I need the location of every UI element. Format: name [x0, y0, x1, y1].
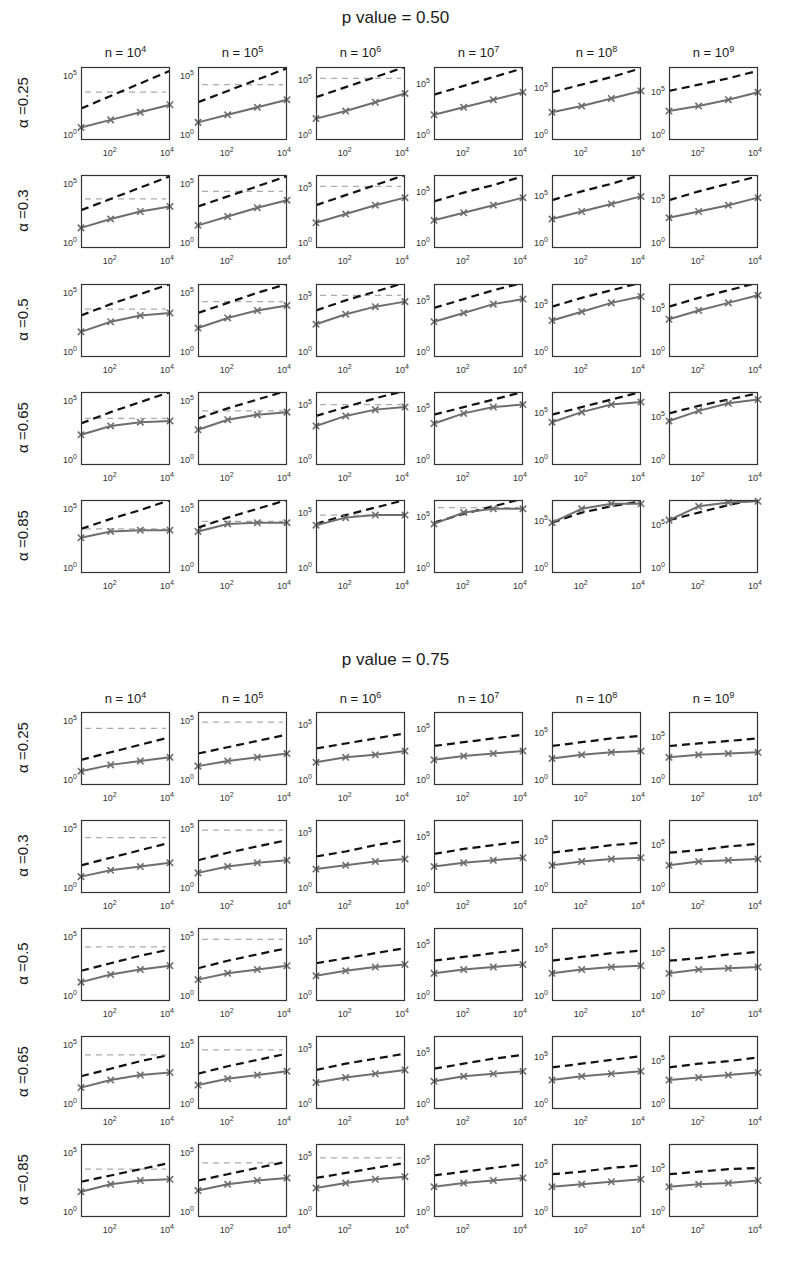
tick-exponent: 2 [701, 579, 705, 586]
tick-base: 10 [63, 179, 73, 189]
tick-exponent: 5 [190, 286, 194, 293]
y-tick-label: 100 [534, 773, 548, 785]
x-tick-label: 104 [631, 254, 645, 266]
tick-exponent: 2 [113, 579, 117, 586]
tick-base: 10 [416, 512, 426, 522]
axes-frame [82, 176, 170, 248]
axes-frame [553, 176, 641, 248]
tick-exponent: 4 [641, 363, 645, 370]
row-label-alpha: α =0.85 [14, 495, 31, 575]
tick-base: 10 [513, 1225, 523, 1235]
tick-exponent: 5 [73, 822, 77, 829]
tick-base: 10 [395, 1117, 405, 1127]
tick-base: 10 [63, 455, 73, 465]
y-tick-label: 100 [298, 1097, 312, 1109]
tick-base: 10 [63, 1207, 73, 1217]
subplot-axes [316, 67, 405, 140]
x-tick-label: 104 [160, 579, 174, 591]
y-tick-label: 100 [416, 128, 430, 140]
tick-exponent: 2 [466, 363, 470, 370]
x-tick-label: 104 [277, 254, 291, 266]
tick-base: 10 [395, 473, 405, 483]
tick-exponent: 0 [544, 453, 548, 460]
subplot-axes [552, 928, 641, 1001]
tick-base: 10 [298, 455, 308, 465]
tick-exponent: 0 [190, 773, 194, 780]
tick-base: 10 [534, 516, 544, 526]
x-tick-label: 102 [220, 363, 234, 375]
tick-exponent: 4 [758, 579, 762, 586]
axes-frame [82, 393, 170, 465]
tick-base: 10 [63, 824, 73, 834]
tick-base: 10 [63, 71, 73, 81]
tick-exponent: 5 [661, 410, 665, 417]
x-tick-label: 104 [513, 363, 527, 375]
tick-base: 10 [651, 840, 661, 850]
tick-base: 10 [395, 148, 405, 158]
tick-base: 10 [277, 1117, 287, 1127]
axes-frame [553, 501, 641, 573]
measured-solid-line [81, 757, 170, 771]
column-title-prefix: n = 10 [458, 691, 495, 706]
tick-exponent: 2 [348, 1223, 352, 1230]
bound-dashed-line [198, 1054, 287, 1074]
bound-dashed-line [669, 738, 758, 746]
tick-base: 10 [63, 991, 73, 1001]
tick-base: 10 [298, 936, 308, 946]
subplot-panel: 100105102104 [198, 712, 287, 785]
tick-base: 10 [574, 365, 584, 375]
subplot-panel: 100105102104 [316, 928, 405, 1001]
y-tick-label: 100 [298, 773, 312, 785]
subplot-axes [669, 392, 758, 465]
tick-exponent: 0 [661, 1097, 665, 1104]
measured-solid-line [81, 105, 170, 128]
subplot-panel: 100105102104 [434, 1144, 523, 1217]
x-tick-label: 102 [456, 254, 470, 266]
measured-solid-line [81, 863, 170, 877]
tick-base: 10 [338, 1117, 348, 1127]
subplot-panel: 100105102104 [434, 175, 523, 248]
tick-base: 10 [631, 473, 641, 483]
tick-exponent: 5 [308, 718, 312, 725]
x-tick-label: 102 [456, 791, 470, 803]
row-label-alpha: α =0.3 [14, 815, 31, 895]
x-tick-label: 102 [220, 1223, 234, 1235]
x-tick-label: 104 [277, 146, 291, 158]
tick-base: 10 [298, 1099, 308, 1109]
tick-base: 10 [416, 347, 426, 357]
tick-exponent: 5 [544, 298, 548, 305]
tick-exponent: 2 [584, 363, 588, 370]
y-tick-label: 105 [180, 502, 194, 514]
y-tick-label: 105 [63, 1146, 77, 1158]
tick-exponent: 5 [544, 834, 548, 841]
subplot-axes [552, 1036, 641, 1109]
bound-dashed-line [552, 283, 641, 307]
x-tick-label: 102 [338, 254, 352, 266]
tick-exponent: 4 [523, 471, 527, 478]
x-tick-label: 102 [103, 146, 117, 158]
subplot-axes [81, 500, 170, 573]
tick-exponent: 2 [348, 254, 352, 261]
tick-exponent: 5 [308, 398, 312, 405]
tick-exponent: 0 [544, 1205, 548, 1212]
x-tick-label: 104 [631, 899, 645, 911]
measured-solid-line [552, 1071, 641, 1080]
tick-base: 10 [631, 256, 641, 266]
bound-dashed-line [81, 284, 170, 315]
tick-exponent: 4 [523, 146, 527, 153]
subplot-axes [81, 1036, 170, 1109]
subplot-panel: 100105102104 [316, 67, 405, 140]
x-tick-label: 102 [220, 1115, 234, 1127]
x-tick-label: 104 [631, 579, 645, 591]
bound-dashed-line [669, 393, 758, 413]
measured-solid-line [81, 1179, 170, 1192]
tick-exponent: 2 [701, 471, 705, 478]
tick-base: 10 [416, 724, 426, 734]
column-title: n = 105 [188, 44, 298, 60]
subplot-axes [434, 500, 523, 573]
tick-exponent: 0 [544, 989, 548, 996]
x-tick-label: 104 [395, 254, 409, 266]
tick-exponent: 5 [426, 938, 430, 945]
tick-exponent: 2 [230, 579, 234, 586]
tick-exponent: 0 [308, 1205, 312, 1212]
